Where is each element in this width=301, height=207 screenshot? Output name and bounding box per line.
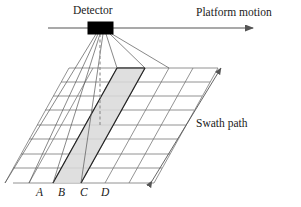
point-label-a: A	[36, 186, 43, 198]
point-label-b: B	[58, 186, 65, 198]
point-label-d: D	[101, 186, 109, 198]
swath-path-label: Swath path	[196, 117, 247, 129]
detector-label: Detector	[73, 4, 113, 16]
diagram-canvas	[0, 0, 301, 207]
swath-band	[53, 68, 145, 183]
figure-container: Detector Platform motion Swath path A B …	[0, 0, 301, 207]
point-label-c: C	[80, 186, 88, 198]
detector-box-icon	[88, 22, 113, 34]
platform-motion-label: Platform motion	[196, 6, 272, 18]
swath-band-fill	[53, 68, 145, 183]
ray-7	[112, 34, 169, 68]
